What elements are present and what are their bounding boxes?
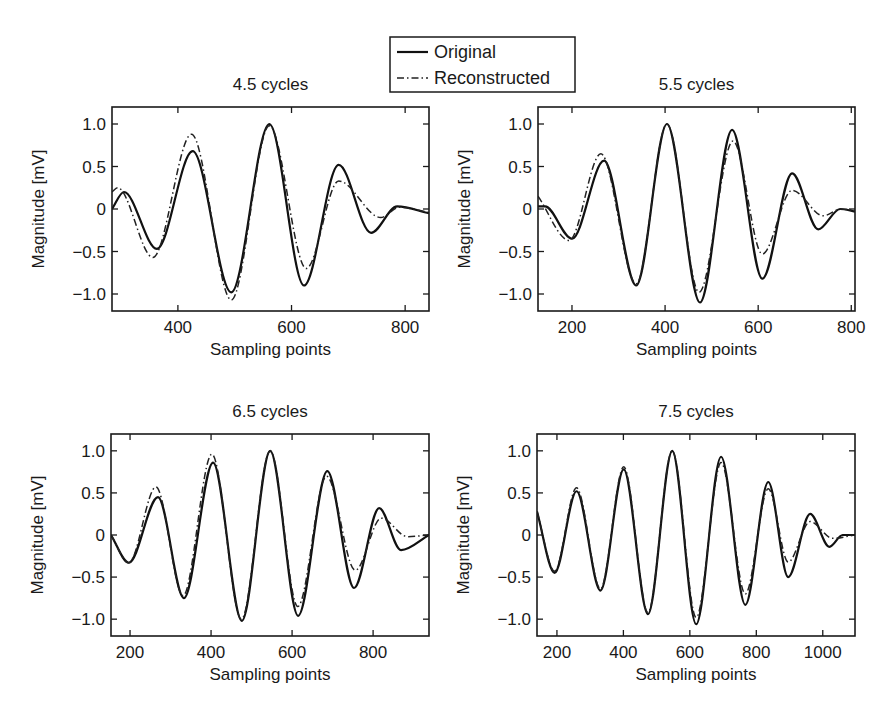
- x-tick-label: 400: [164, 318, 192, 337]
- y-tick-label: −1.0: [498, 285, 532, 304]
- x-tick-label: 800: [837, 318, 865, 337]
- y-tick-label: 1.0: [508, 115, 532, 134]
- x-axis-label: Sampling points: [210, 340, 331, 359]
- y-tick-label: −0.5: [498, 243, 532, 262]
- x-tick-label: 400: [651, 318, 679, 337]
- panel-title: 5.5 cycles: [659, 75, 735, 94]
- x-tick-label: 600: [744, 318, 772, 337]
- y-tick-label: 0: [97, 200, 106, 219]
- y-tick-label: −0.5: [497, 568, 531, 587]
- y-tick-label: −0.5: [72, 243, 106, 262]
- x-tick-label: 600: [278, 643, 306, 662]
- y-tick-label: −1.0: [71, 610, 105, 629]
- series-reconstructed: [537, 451, 855, 618]
- panel-title: 6.5 cycles: [232, 402, 308, 421]
- x-tick-label: 600: [277, 318, 305, 337]
- y-tick-label: 0: [96, 526, 105, 545]
- series-original: [538, 124, 855, 303]
- legend-label-reconstructed: Reconstructed: [434, 68, 550, 88]
- y-tick-label: −1.0: [497, 610, 531, 629]
- y-axis-label: Magnitude [mV]: [455, 149, 474, 268]
- panel-title: 4.5 cycles: [233, 75, 309, 94]
- x-axis-label: Sampling points: [636, 665, 757, 684]
- x-tick-label: 400: [197, 643, 225, 662]
- y-tick-label: 0.5: [508, 158, 532, 177]
- figure: Original Reconstructed 4.5 cycles4006008…: [0, 0, 890, 722]
- panel-3: 6.5 cycles2004006008001.00.50−0.5−1.0Sam…: [28, 402, 429, 684]
- x-tick-label: 800: [742, 643, 770, 662]
- y-tick-label: 0.5: [82, 158, 106, 177]
- x-tick-label: 200: [116, 643, 144, 662]
- series-reconstructed: [112, 126, 429, 300]
- y-tick-label: 0.5: [81, 484, 105, 503]
- y-axis-label: Magnitude [mV]: [454, 475, 473, 594]
- legend: Original Reconstructed: [390, 37, 575, 92]
- x-tick-label: 200: [558, 318, 586, 337]
- x-axis-label: Sampling points: [636, 340, 757, 359]
- panel-2: 5.5 cycles2004006008001.00.50−0.5−1.0Sam…: [455, 75, 865, 359]
- x-axis-label: Sampling points: [210, 665, 331, 684]
- x-tick-label: 200: [543, 643, 571, 662]
- panel-title: 7.5 cycles: [658, 402, 734, 421]
- y-tick-label: 1.0: [81, 442, 105, 461]
- y-tick-label: 0.5: [507, 484, 531, 503]
- x-tick-label: 1000: [804, 643, 842, 662]
- x-tick-label: 800: [359, 643, 387, 662]
- y-tick-label: 1.0: [507, 442, 531, 461]
- y-tick-label: 0: [523, 200, 532, 219]
- series-reconstructed: [111, 451, 429, 619]
- y-tick-label: −1.0: [72, 285, 106, 304]
- series-original: [111, 451, 429, 621]
- plot-frame: [112, 107, 429, 311]
- y-axis-label: Magnitude [mV]: [28, 475, 47, 594]
- y-tick-label: 1.0: [82, 115, 106, 134]
- x-tick-label: 800: [391, 318, 419, 337]
- y-tick-label: 0: [522, 526, 531, 545]
- legend-label-original: Original: [434, 42, 496, 62]
- series-original: [112, 124, 429, 292]
- plot-frame: [537, 434, 855, 636]
- x-tick-label: 400: [609, 643, 637, 662]
- series-original: [537, 451, 855, 624]
- x-tick-label: 600: [676, 643, 704, 662]
- y-tick-label: −0.5: [71, 568, 105, 587]
- panel-1: 4.5 cycles4006008001.00.50−0.5−1.0Sampli…: [29, 75, 429, 359]
- y-axis-label: Magnitude [mV]: [29, 149, 48, 268]
- panel-4: 7.5 cycles20040060080010001.00.50−0.5−1.…: [454, 402, 855, 684]
- plot-frame: [111, 434, 429, 636]
